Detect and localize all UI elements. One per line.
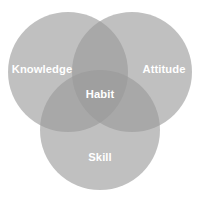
venn-circle-skill[interactable] (40, 70, 160, 190)
venn-diagram-canvas (0, 0, 200, 202)
venn-diagram: Knowledge Attitude Habit Skill (0, 0, 200, 202)
